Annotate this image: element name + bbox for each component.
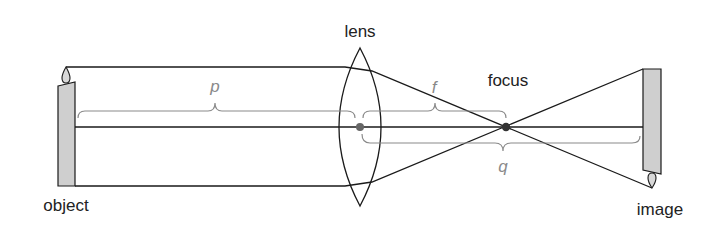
image-candle bbox=[643, 69, 661, 174]
brace-f bbox=[363, 103, 506, 118]
object-candle bbox=[58, 82, 75, 186]
lens-ray-diagram: lens focus object image p f q bbox=[0, 0, 713, 235]
lens-label: lens bbox=[344, 22, 375, 41]
focus-point bbox=[502, 123, 510, 131]
p-label: p bbox=[209, 77, 219, 96]
image-flame-icon bbox=[648, 173, 656, 188]
image-label: image bbox=[637, 200, 683, 219]
brace-p bbox=[78, 103, 355, 118]
f-label: f bbox=[432, 78, 439, 97]
q-label: q bbox=[498, 157, 508, 176]
object-flame-icon bbox=[62, 67, 70, 83]
focus-label: focus bbox=[488, 71, 529, 90]
object-label: object bbox=[43, 196, 89, 215]
brace-q bbox=[362, 134, 640, 151]
lens-center-point bbox=[356, 123, 364, 131]
